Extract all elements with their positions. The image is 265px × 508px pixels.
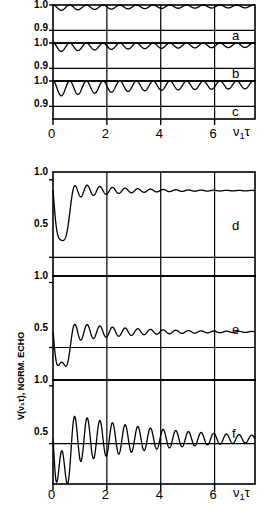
panel-label-a: a — [232, 28, 239, 43]
upper-ytick-0: 1.0 — [8, 0, 48, 10]
lower-ytick-3: 0.5 — [8, 322, 48, 333]
upper-ytick-4: 1.0 — [8, 75, 48, 86]
upper-x-axis-title: ν1τ — [233, 124, 250, 141]
lower-ytick-5: 0.5 — [8, 426, 48, 437]
upper-xtick-0: 0 — [48, 126, 55, 141]
panel-label-c: c — [232, 104, 239, 119]
upper-xtick-3: 6 — [210, 126, 217, 141]
upper-ytick-1: 0.9 — [8, 22, 48, 33]
y-axis-title: V(ν₁τ), NORM. ECHO — [16, 332, 26, 420]
upper-xtick-2: 4 — [156, 126, 163, 141]
upper-ytick-5: 0.9 — [8, 98, 48, 109]
lower-ytick-1: 0.5 — [8, 218, 48, 229]
upper-xtick-1: 2 — [102, 126, 109, 141]
lower-ytick-2: 1.0 — [8, 270, 48, 281]
panel-label-f: f — [232, 426, 236, 441]
figure-root: 1.00.91.00.91.00.91.00.51.00.51.00.50246… — [0, 0, 265, 508]
panel-label-b: b — [232, 66, 239, 81]
lower-xtick-0: 0 — [48, 487, 55, 502]
panel-label-d: d — [232, 218, 239, 233]
lower-xtick-2: 4 — [156, 487, 163, 502]
lower-xtick-3: 6 — [210, 487, 217, 502]
lower-ytick-0: 1.0 — [8, 166, 48, 177]
panel-label-e: e — [232, 322, 239, 337]
lower-ytick-4: 1.0 — [8, 374, 48, 385]
upper-ytick-3: 0.9 — [8, 60, 48, 71]
lower-xtick-1: 2 — [102, 487, 109, 502]
lower-x-axis-title: ν1τ — [233, 485, 250, 502]
upper-ytick-2: 1.0 — [8, 37, 48, 48]
